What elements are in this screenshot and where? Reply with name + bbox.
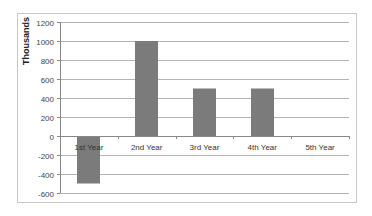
y-tick-label: -600 <box>38 190 55 199</box>
x-category-label: 4th Year <box>248 143 278 152</box>
y-tick-label: 200 <box>41 114 55 123</box>
bar-chart: 120010008006004002000-200-400-6001st Yea… <box>0 0 372 216</box>
y-tick-label: 1000 <box>36 38 54 47</box>
x-category-label: 5th Year <box>305 143 335 152</box>
bar <box>135 41 158 136</box>
y-tick-label: 600 <box>41 76 55 85</box>
x-category-label: 3rd Year <box>190 143 220 152</box>
y-tick-label: -400 <box>38 171 55 180</box>
x-category-label: 2nd Year <box>131 143 163 152</box>
y-tick-label: -200 <box>38 152 55 161</box>
bar <box>251 89 274 137</box>
y-tick-label: 800 <box>41 57 55 66</box>
x-category-label: 1st Year <box>74 143 103 152</box>
y-tick-label: 0 <box>50 133 55 142</box>
y-tick-label: 400 <box>41 95 55 104</box>
bar <box>193 89 216 137</box>
y-tick-label: 1200 <box>36 19 54 28</box>
